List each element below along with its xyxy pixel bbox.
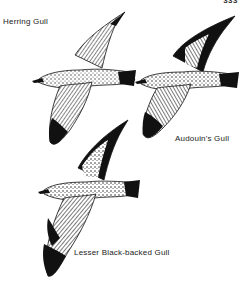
audouins-gull-illustration: [135, 16, 242, 146]
page-number: 333: [223, 0, 238, 5]
lesser-black-backed-gull-illustration: [38, 118, 143, 283]
